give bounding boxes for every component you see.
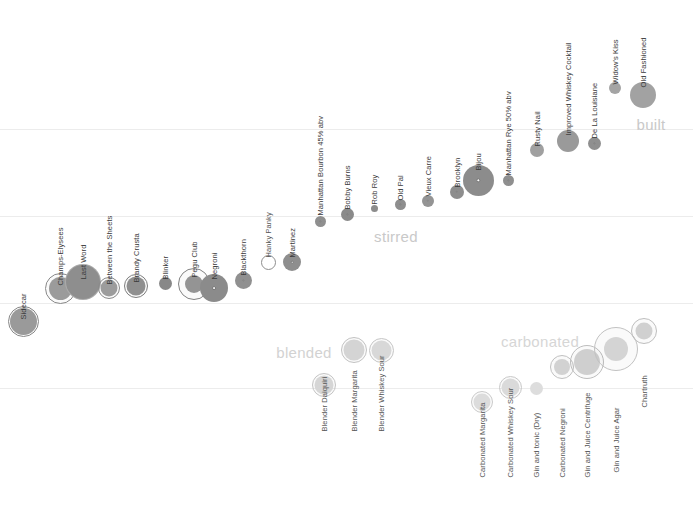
point-label: Blinker — [161, 256, 169, 280]
bubble-core — [530, 382, 543, 395]
point-label: Martinez — [288, 228, 296, 258]
point-label: Rusty Nail — [533, 111, 541, 146]
bubble-point[interactable] — [530, 382, 543, 395]
group-label-stirred: stirred — [374, 228, 418, 245]
group-label-carbonated: carbonated — [501, 333, 579, 350]
point-label: Widow's Kiss — [611, 39, 619, 84]
bubble-core — [604, 337, 628, 361]
point-label: Rob Roy — [370, 175, 378, 205]
point-label: Blender Whiskey Sour — [377, 355, 385, 431]
point-label: Last Word — [79, 245, 87, 280]
point-label: Carbonated Margarita — [478, 403, 486, 478]
point-label: Between the Sheets — [105, 216, 113, 285]
bubble-center-dot — [291, 261, 294, 264]
bubble-point[interactable] — [371, 205, 378, 212]
point-label: Gin and tonic (Dry) — [532, 413, 540, 478]
point-label: Chartruth — [640, 375, 648, 407]
point-label: Improved Whiskey Cocktail — [564, 43, 572, 136]
point-label: Carbonated Negroni — [558, 408, 566, 477]
group-label-blended: blended — [276, 344, 332, 361]
point-label: Vieux Carre — [424, 156, 432, 197]
group-label-built: built — [636, 116, 665, 133]
point-label: Hanky Panky — [264, 212, 272, 257]
point-label: Blackthorn — [239, 239, 247, 275]
point-label: Brooklyn — [453, 158, 461, 188]
bubble-point[interactable] — [631, 318, 657, 344]
point-label: Carbonated Whiskey Sour — [506, 388, 514, 478]
gridline-3 — [0, 388, 693, 389]
bubble-core — [371, 205, 378, 212]
point-label: Pegu Club — [190, 242, 198, 278]
bubble-point[interactable] — [315, 216, 326, 227]
bubble-core — [554, 359, 570, 375]
point-label: Gin and Juice Centrifuge — [583, 393, 591, 478]
bubble-chart-canvas: SidecarChamps-ElyseesLast WordBetween th… — [0, 0, 693, 522]
bubble-point[interactable] — [341, 337, 367, 363]
bubble-center-dot — [212, 286, 216, 290]
bubble-point[interactable] — [422, 195, 434, 207]
point-label: Champs-Elysees — [56, 227, 64, 285]
point-label: Brandy Crusta — [132, 233, 140, 282]
bubble-core — [344, 340, 365, 361]
point-label: De La Louisiane — [590, 83, 598, 139]
point-label: Bobby Burns — [343, 165, 351, 209]
point-label: Old Fashioned — [639, 37, 647, 87]
bubble-core — [636, 323, 653, 340]
point-label: Gin and Juice Agar — [612, 407, 620, 472]
bubble-point[interactable] — [503, 175, 514, 186]
point-label: Blender Daiquiri — [320, 377, 328, 432]
point-label: Manhattan Rye 50% abv — [504, 91, 512, 175]
gridline-2 — [0, 303, 693, 304]
point-label: Manhattan Bourbon 45% abv — [316, 116, 324, 216]
point-label: Old Pal — [396, 175, 404, 200]
point-label: Blender Margarita — [350, 370, 358, 431]
point-label: Bijou — [474, 153, 482, 170]
point-label: Negroni — [210, 253, 218, 280]
point-label: Sidecar — [19, 293, 27, 319]
